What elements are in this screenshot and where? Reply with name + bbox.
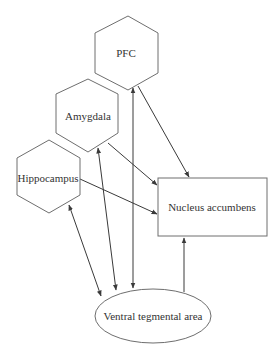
node-vta-label: Ventral tegmental area [104,310,203,322]
node-nucleus-accumbens: Nucleus accumbens [158,178,267,236]
brain-circuit-diagram: PFC Amygdala Hippocampus Nucleus accumbe… [0,0,280,358]
node-amygdala-label: Amygdala [65,110,111,122]
node-pfc-label: PFC [116,47,136,59]
node-hippocampus: Hippocampus [17,140,80,213]
edge-vta-amygdala [98,148,116,290]
node-hippocampus-label: Hippocampus [17,172,78,184]
edge-hippocampus-to-nac [80,179,157,214]
edge-pfc-to-nac [138,86,189,177]
node-ventral-tegmental-area: Ventral tegmental area [95,289,211,343]
node-amygdala: Amygdala [56,79,118,152]
edge-vta-hippocampus [69,205,101,296]
node-nucleus-accumbens-label: Nucleus accumbens [168,201,256,213]
node-pfc: PFC [95,16,158,90]
